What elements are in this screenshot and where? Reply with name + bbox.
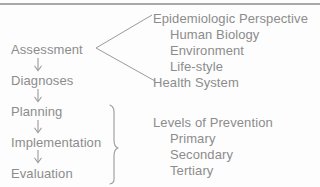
arrow-implementation-to-evaluation — [35, 150, 41, 163]
levels-of-prevention-heading: Levels of Prevention — [153, 116, 273, 129]
epidemiologic-item-human-biology: Human Biology — [153, 28, 259, 41]
assessment-fan-lines — [96, 15, 155, 81]
prevention-item-primary: Primary — [153, 132, 215, 145]
process-step-diagnoses: Diagnoses — [11, 74, 73, 87]
diagram-figure: Assessment Diagnoses Planning Implementa… — [0, 0, 320, 187]
prevention-curly-brace — [110, 105, 118, 184]
epidemiologic-item-health-system: Health System — [153, 76, 239, 89]
prevention-item-secondary: Secondary — [153, 148, 233, 161]
fan-line-upper — [96, 15, 152, 48]
arrow-assessment-to-diagnoses — [35, 58, 41, 71]
prevention-item-tertiary: Tertiary — [153, 164, 213, 177]
epidemiologic-perspective-heading: Epidemiologic Perspective — [153, 12, 308, 25]
process-step-evaluation: Evaluation — [11, 167, 73, 180]
process-step-assessment: Assessment — [11, 43, 83, 56]
arrow-diagnoses-to-planning — [35, 89, 41, 102]
epidemiologic-item-life-style: Life-style — [153, 60, 223, 73]
process-step-implementation: Implementation — [11, 136, 101, 149]
epidemiologic-item-environment: Environment — [153, 44, 244, 57]
fan-line-lower — [96, 48, 155, 81]
process-step-planning: Planning — [11, 105, 62, 118]
arrow-planning-to-implementation — [35, 120, 41, 133]
